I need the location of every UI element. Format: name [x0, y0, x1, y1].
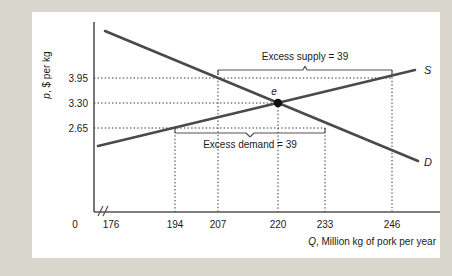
y-tick-label-395: 3.95	[69, 73, 89, 84]
equilibrium-point-label: e	[271, 86, 277, 97]
x-tick-label-194: 194	[167, 219, 184, 230]
x-tick-label-220: 220	[270, 219, 287, 230]
x-axis-title-rest: , Million kg of pork per year	[316, 236, 437, 247]
supply-curve-label: S	[424, 64, 432, 76]
equilibrium-point-marker	[274, 99, 282, 107]
figure-root: e S D Excess supply = 39 Excess demand =…	[0, 0, 452, 276]
y-axis-title: p, $ per kg	[41, 51, 52, 99]
x-tick-label-246: 246	[384, 219, 401, 230]
y-axis-title-rest: , $ per kg	[41, 51, 52, 93]
x-tick-label-0: 0	[72, 219, 78, 230]
x-tick-label-176: 176	[103, 219, 120, 230]
x-tick-label-233: 233	[317, 219, 334, 230]
y-tick-label-265: 2.65	[69, 123, 89, 134]
excess-supply-label: Excess supply = 39	[262, 51, 349, 62]
x-axis-title: Q, Million kg of pork per year	[308, 236, 437, 247]
supply-demand-chart: e S D Excess supply = 39 Excess demand =…	[0, 0, 452, 276]
excess-demand-bracket	[175, 128, 325, 137]
y-tick-label-330: 3.30	[69, 98, 89, 109]
excess-supply-bracket	[218, 66, 392, 75]
supply-curve	[98, 70, 415, 146]
excess-demand-label: Excess demand = 39	[203, 139, 297, 150]
x-tick-label-207: 207	[210, 219, 227, 230]
demand-curve-label: D	[424, 156, 432, 168]
axis-break-icon	[98, 206, 108, 216]
